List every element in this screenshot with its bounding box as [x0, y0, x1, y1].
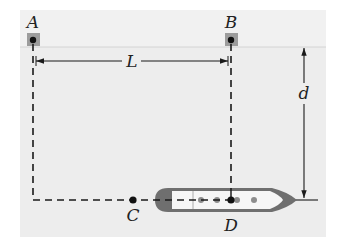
label-l: L — [125, 51, 137, 71]
point-d — [227, 196, 234, 203]
point-c — [129, 196, 136, 203]
shore-strip — [20, 10, 326, 47]
label-d-point: D — [223, 215, 238, 235]
ship-distance-diagram: A B L d C D — [0, 0, 337, 247]
label-b: B — [224, 12, 238, 32]
label-a: A — [25, 12, 39, 32]
label-c: C — [126, 205, 139, 225]
label-d-distance: d — [299, 83, 310, 103]
